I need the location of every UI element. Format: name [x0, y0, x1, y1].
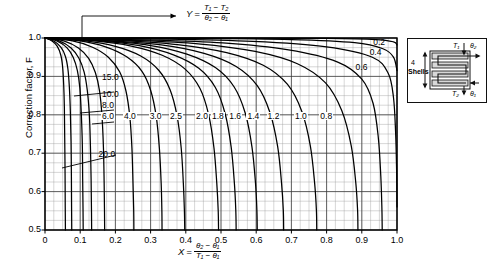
- bottom-inlet-arrow: [470, 81, 475, 86]
- curve-label-0.4: 0.4: [369, 48, 383, 57]
- curve-label-1.0: 1.0: [294, 112, 308, 121]
- curve-label-8.0: 8.0: [101, 101, 115, 110]
- y-tick-label: 0.7: [17, 148, 41, 157]
- y-tick-label: 0.8: [17, 110, 41, 119]
- x-tick-label: 0.4: [177, 236, 195, 245]
- y-tick-label: 1.0: [17, 33, 41, 42]
- x-tick-label: 0.7: [282, 236, 300, 245]
- x-tick-label: 0.6: [247, 236, 265, 245]
- axis-ticks: [42, 38, 398, 234]
- shell-count-arrow-up: [423, 52, 428, 57]
- y-tick-label: 0.9: [17, 71, 41, 80]
- curve-label-4.0: 4.0: [123, 112, 137, 121]
- tube-serpentine-path: [438, 56, 466, 83]
- inset-shell-count: 4: [411, 59, 415, 66]
- curve-label-0.6: 0.6: [355, 63, 369, 72]
- inset-label-T2: T₂: [452, 90, 459, 97]
- x-tick-label: 0.3: [142, 236, 160, 245]
- curve-label-2.0: 2.0: [195, 112, 209, 121]
- y-equation-leader-arrow: [171, 13, 177, 18]
- curve-label-1.8: 1.8: [211, 112, 225, 121]
- x-tick-label: 0.1: [71, 236, 89, 245]
- y-tick-label: 0.5: [17, 225, 41, 234]
- inset-shell-word: Shells: [408, 68, 429, 75]
- curve-label-1.4: 1.4: [246, 112, 260, 121]
- curve-label-15.0: 15.0: [101, 73, 120, 82]
- inset-label-theta1: θ₁: [470, 90, 476, 97]
- curve-label-3.0: 3.0: [149, 112, 163, 121]
- x-tick-label: 1.0: [388, 236, 406, 245]
- chart-figure: Correction factor, F Y = T₁ − T₂ θ₂ − θ₁…: [0, 0, 489, 270]
- y-tick-label: 0.6: [17, 187, 41, 196]
- y-equation-leader-line: [82, 16, 176, 38]
- curve-label-2.5: 2.5: [169, 112, 183, 121]
- x-tick-label: 0.5: [212, 236, 230, 245]
- top-outlet-arrow: [476, 54, 481, 59]
- inset-diagram: 4 Shells T₁ θ₂ T₂ θ₁: [407, 38, 487, 103]
- curve-label-6.0: 6.0: [101, 112, 115, 121]
- inset-label-theta2: θ₂: [470, 42, 476, 49]
- x-tick-label: 0.2: [106, 236, 124, 245]
- curve-label-1.6: 1.6: [228, 112, 242, 121]
- curve-label-20.0: 20.0: [98, 150, 117, 159]
- x-tick-label: 0.8: [318, 236, 336, 245]
- inset-label-T1: T₁: [453, 42, 459, 49]
- x-tick-label: 0.9: [353, 236, 371, 245]
- bottom-outlet-arrow: [462, 91, 467, 96]
- shell-count-arrow-down: [423, 84, 428, 89]
- curve-label-0.2: 0.2: [372, 38, 386, 47]
- curve-label-10.0: 10.0: [101, 90, 120, 99]
- curve-label-0.8: 0.8: [319, 112, 333, 121]
- curve-label-1.2: 1.2: [267, 112, 281, 121]
- x-tick-label: 0: [36, 236, 54, 245]
